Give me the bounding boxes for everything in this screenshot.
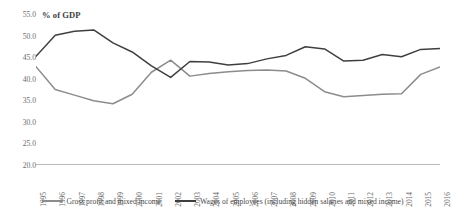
- y-axis-tick: 25.0: [23, 139, 36, 148]
- legend-label: Gross profit and mixed income: [67, 197, 161, 206]
- y-axis-tick: 55.0: [23, 10, 36, 19]
- y-axis-tick: 40.0: [23, 74, 36, 83]
- series-line-2: [36, 30, 440, 77]
- legend-item-2[interactable]: Wages of employees (including hidden sal…: [175, 197, 404, 206]
- y-axis-tick-labels: 55.050.045.040.035.030.025.020.0: [0, 0, 40, 215]
- legend-item-1[interactable]: Gross profit and mixed income: [42, 197, 161, 206]
- legend-swatch-icon: [42, 200, 63, 202]
- line-chart-svg: [36, 14, 440, 165]
- series-line-1: [36, 60, 440, 104]
- legend-label: Wages of employees (including hidden sal…: [200, 197, 404, 206]
- y-axis-tick: 35.0: [23, 96, 36, 105]
- y-axis-tick: 50.0: [23, 31, 36, 40]
- x-axis-tick-labels: 1995199619971998199920002001200220032004…: [36, 165, 440, 195]
- y-axis-tick: 45.0: [23, 53, 36, 62]
- chart-legend: Gross profit and mixed incomeWages of em…: [0, 192, 445, 210]
- y-axis-tick: 30.0: [23, 117, 36, 126]
- plot-area: [36, 14, 440, 165]
- y-axis-tick: 20.0: [23, 161, 36, 170]
- legend-swatch-icon: [175, 200, 196, 202]
